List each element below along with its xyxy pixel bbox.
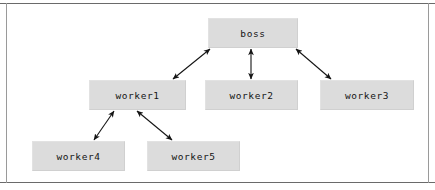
frame-top-rule	[0, 3, 435, 4]
edge-boss-to-worker1	[173, 49, 210, 79]
frame-right-rule	[428, 3, 429, 183]
node-label: boss	[240, 28, 265, 39]
node-worker4[interactable]: worker4	[32, 141, 125, 171]
edge-worker1-to-worker4	[94, 111, 114, 140]
frame-left-rule	[6, 3, 7, 183]
node-label: worker5	[171, 151, 215, 162]
node-label: worker1	[115, 90, 159, 101]
diagram-figure: bossworker1worker2worker3worker4worker5	[0, 0, 435, 190]
node-worker5[interactable]: worker5	[147, 141, 240, 171]
node-label: worker4	[56, 151, 100, 162]
node-label: worker2	[229, 90, 273, 101]
node-boss[interactable]: boss	[208, 18, 298, 48]
edge-boss-to-worker3	[296, 49, 331, 79]
node-worker3[interactable]: worker3	[320, 80, 414, 110]
frame-bottom-rule	[0, 182, 435, 183]
node-worker1[interactable]: worker1	[89, 80, 186, 110]
edge-worker1-to-worker5	[137, 111, 172, 140]
node-worker2[interactable]: worker2	[205, 80, 298, 110]
node-label: worker3	[345, 90, 389, 101]
